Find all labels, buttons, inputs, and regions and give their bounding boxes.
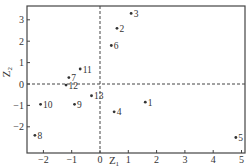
data-point-11: 11 bbox=[79, 65, 92, 75]
data-point-8: 8 bbox=[34, 131, 43, 141]
y-tick-label: 2 bbox=[19, 36, 24, 47]
y-tick-label: −1 bbox=[13, 100, 24, 111]
data-point-4: 4 bbox=[113, 107, 122, 117]
point-label: 12 bbox=[69, 81, 79, 91]
data-point-2: 2 bbox=[116, 24, 125, 34]
x-tick-label: 0 bbox=[98, 154, 103, 165]
point-label: 10 bbox=[43, 100, 53, 110]
x-tick-label: 1 bbox=[126, 154, 131, 165]
x-tick-label: −1 bbox=[66, 154, 77, 165]
y-tick-label: 1 bbox=[19, 57, 24, 68]
y-tick-label: 3 bbox=[19, 14, 24, 25]
reference-lines bbox=[27, 6, 245, 153]
data-point-9: 9 bbox=[73, 100, 82, 110]
data-point-13: 13 bbox=[90, 91, 104, 101]
scatter-chart: −2−1012345 −2−10123 12345678910111213 Z1… bbox=[0, 0, 248, 168]
plot-frame bbox=[27, 6, 245, 153]
x-tick-label: 5 bbox=[239, 154, 244, 165]
point-label: 5 bbox=[238, 133, 243, 143]
data-point-1: 1 bbox=[144, 98, 153, 108]
point-label: 1 bbox=[148, 98, 153, 108]
point-label: 8 bbox=[37, 131, 42, 141]
x-tick-label: −2 bbox=[38, 154, 49, 165]
data-point-3: 3 bbox=[130, 9, 139, 19]
point-label: 11 bbox=[83, 65, 92, 75]
point-label: 3 bbox=[134, 9, 139, 19]
point-label: 13 bbox=[94, 91, 104, 101]
data-point-10: 10 bbox=[39, 100, 53, 110]
data-point-12: 12 bbox=[65, 81, 79, 91]
data-points: 12345678910111213 bbox=[34, 9, 244, 143]
point-label: 2 bbox=[119, 24, 124, 34]
point-label: 4 bbox=[117, 107, 122, 117]
x-axis-ticks: −2−1012345 bbox=[38, 150, 244, 165]
x-tick-label: 3 bbox=[182, 154, 187, 165]
data-point-5: 5 bbox=[234, 133, 243, 143]
y-tick-label: −2 bbox=[13, 121, 24, 132]
data-point-6: 6 bbox=[110, 41, 119, 51]
y-axis-label: Z2 bbox=[0, 66, 14, 77]
point-label: 9 bbox=[77, 100, 82, 110]
point-label: 6 bbox=[114, 41, 119, 51]
x-tick-label: 4 bbox=[211, 154, 216, 165]
x-tick-label: 2 bbox=[154, 154, 159, 165]
x-axis-label: Z1 bbox=[109, 154, 120, 168]
y-tick-label: 0 bbox=[19, 79, 24, 90]
